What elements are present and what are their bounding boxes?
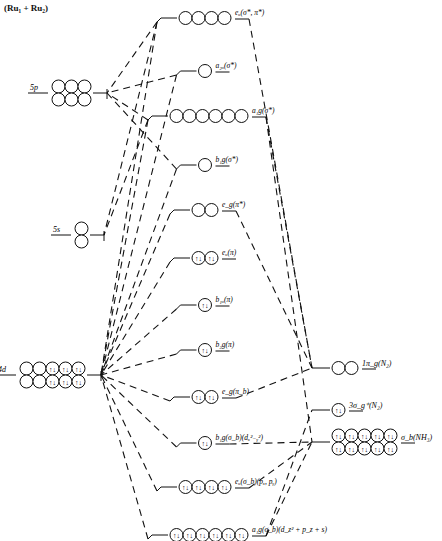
atomic-level-label: 5s (53, 225, 60, 234)
electron-pair-icon: ↑↓ (387, 433, 394, 441)
atomic-level-label: 5p (30, 83, 38, 92)
electron-pair-icon: ↑↓ (62, 379, 69, 387)
mo-level-label: b₁g(σ*) (216, 155, 239, 164)
mo-level-label: eᵤ(σ*, π*) (235, 8, 265, 17)
mo-level-label: a₁g(σ*) (252, 106, 275, 115)
mo-level-label: a₁g(σ_b)(d_z² + p_z + s) (252, 525, 327, 534)
ligand-level-3sigmag_N2: ↑↓3σ_g⁺(N₂) (312, 401, 383, 417)
electron-pair-icon: ↑↓ (221, 484, 228, 492)
ligand-level-1pig_N2: 1π_g(N₂) (312, 359, 392, 375)
electron-pair-icon: ↑↓ (195, 255, 202, 263)
mo-level-label: b₂g(π) (216, 340, 235, 349)
electron-pair-icon: ↑↓ (335, 433, 342, 441)
mo-level-b1u_pi: ↑↓b₁ᵤ(π) (101, 295, 233, 375)
electron-pair-icon: ↑↓ (225, 532, 232, 540)
ligand-level-label: 3σ_g⁺(N₂) (348, 401, 383, 410)
electron-pair-icon: ↑↓ (195, 484, 202, 492)
mo-diagram: (Ru₁ + Ru₂) 5p5s↑↓↑↓↑↓↑↓↑↓↑↓4d1π_g(N₂)↑↓… (0, 0, 442, 541)
ligand-level-label: σ_b(NH₃) (401, 433, 433, 442)
mo-level-label: b₁g(σ_b)(dₓ²₋ᵧ²) (216, 433, 264, 442)
diagram-title: (Ru₁ + Ru₂) (4, 3, 48, 13)
electron-pair-icon: ↑↓ (195, 394, 202, 402)
mo-level-label: b₁ᵤ(π) (216, 295, 234, 304)
electron-pair-icon: ↑↓ (202, 347, 209, 355)
electron-pair-icon: ↑↓ (62, 366, 69, 374)
mo-level-label: eᵤ(σ_b)(pₓ, pᵧ) (235, 477, 277, 486)
electron-pair-icon: ↑↓ (361, 446, 368, 454)
electron-pair-icon: ↑↓ (348, 446, 355, 454)
electron-pair-icon: ↑↓ (202, 440, 209, 448)
atomic-level-4d: ↑↓↑↓↑↓↑↓↑↓↑↓4d (0, 362, 101, 388)
electron-pair-icon: ↑↓ (335, 446, 342, 454)
electron-pair-icon: ↑↓ (348, 433, 355, 441)
electron-pair-icon: ↑↓ (361, 433, 368, 441)
electron-pair-icon: ↑↓ (212, 532, 219, 540)
mo-diagram-canvas: 5p5s↑↓↑↓↑↓↑↓↑↓↑↓4d1π_g(N₂)↑↓3σ_g⁺(N₂)↑↓↑… (0, 0, 442, 541)
electron-pair-icon: ↑↓ (182, 484, 189, 492)
electron-pair-icon: ↑↓ (199, 532, 206, 540)
electron-pair-icon: ↑↓ (75, 366, 82, 374)
mo-level-label: eᵤ(π) (222, 248, 237, 257)
electron-pair-icon: ↑↓ (374, 446, 381, 454)
electron-pair-icon: ↑↓ (374, 433, 381, 441)
ligand-level-label: 1π_g(N₂) (362, 359, 392, 368)
ligand-level-sigmab_NH3: ↑↓↑↓↑↓↑↓↑↓↑↓↑↓↑↓↑↓↑↓σ_b(NH₃) (312, 429, 433, 455)
electron-pair-icon: ↑↓ (75, 379, 82, 387)
mo-level-label: e_g(π*) (222, 200, 246, 209)
mo-level-eg_pib: ↑↓↑↓e_g(π_b) (101, 368, 312, 404)
mo-level-a1g_sigma_star: a₁g(σ*) (101, 93, 312, 442)
electron-pair-icon: ↑↓ (208, 484, 215, 492)
mo-level-label: a₂ᵤ(σ*) (216, 61, 238, 70)
electron-pair-icon: ↑↓ (335, 407, 342, 415)
electron-pair-icon: ↑↓ (49, 366, 56, 374)
electron-pair-icon: ↑↓ (208, 394, 215, 402)
atomic-level-5s: 5s (51, 222, 104, 248)
electron-pair-icon: ↑↓ (186, 532, 193, 540)
mo-level-eu_sigma_pi_star: eᵤ(σ*, π*) (101, 8, 312, 375)
atomic-level-5p: 5p (28, 80, 107, 106)
atomic-level-label: 4d (0, 365, 7, 374)
electron-pair-icon: ↑↓ (173, 532, 180, 540)
electron-pair-icon: ↑↓ (208, 255, 215, 263)
mo-level-label: e_g(π_b) (222, 387, 250, 396)
electron-pair-icon: ↑↓ (238, 532, 245, 540)
electron-pair-icon: ↑↓ (49, 379, 56, 387)
electron-pair-icon: ↑↓ (387, 446, 394, 454)
mo-level-b1g_sigmab: ↑↓b₁g(σ_b)(dₓ²₋ᵧ²) (101, 375, 312, 450)
mo-level-b1g_sigma_star: b₁g(σ*) (101, 93, 239, 375)
electron-pair-icon: ↑↓ (202, 302, 209, 310)
